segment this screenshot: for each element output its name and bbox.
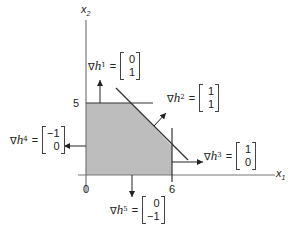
- x2-axis-label: x2: [81, 4, 90, 17]
- gradient-label-h5: ∇h5 = 0−1: [110, 196, 165, 224]
- vector-h3: 10: [236, 142, 256, 170]
- arrow-h2: [154, 113, 166, 126]
- tick-label-5: 5: [73, 98, 79, 109]
- vector-h2: 11: [199, 84, 219, 112]
- vector-h4: −10: [42, 126, 65, 154]
- x1-axis-label: x1: [276, 168, 285, 181]
- gradient-label-h1: ∇h1 = 01: [88, 52, 140, 80]
- vector-h5: 0−1: [142, 196, 165, 224]
- tick-label-0: 0: [83, 184, 89, 195]
- gradient-label-h3: ∇h3 = 10: [204, 142, 256, 170]
- gradient-label-h2: ∇h2 = 11: [167, 84, 219, 112]
- gradient-label-h4: ∇h4 = −10: [10, 126, 65, 154]
- vector-h1: 01: [120, 52, 140, 80]
- tick-label-6: 6: [169, 184, 175, 195]
- feasible-region: [86, 103, 172, 175]
